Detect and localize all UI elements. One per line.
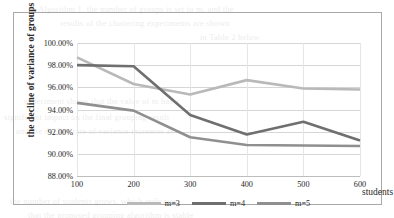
x-axis-tick-label: 400 [241,180,253,189]
y-axis-tick-label: 92.00% [48,127,73,136]
y-axis-tick-label: 90.00% [48,149,73,158]
x-axis-tick-label: 200 [127,180,139,189]
legend-swatch-icon [257,202,291,205]
series-line-m3 [77,57,360,94]
x-axis-tick-label: 300 [184,180,196,189]
y-axis-tick-label: 98.00% [48,61,73,70]
legend-label: m=4 [230,199,245,208]
x-axis-title: students [362,187,393,197]
x-axis-tick-label: 100 [71,180,83,189]
y-axis-tick-label: 94.00% [48,105,73,114]
legend-swatch-icon [127,202,161,205]
legend-label: m=3 [165,199,180,208]
legend-swatch-icon [192,202,226,205]
legend-item-m4[interactable]: m=4 [192,199,245,208]
x-gridline [360,43,361,176]
legend-label: m=5 [295,199,310,208]
y-axis-title: the decline of variance of groups [26,0,36,145]
plot-area: 100.00%98.00%96.00%94.00%92.00%90.00%88.… [77,43,360,176]
x-axis-tick-label: 500 [297,180,309,189]
y-axis-tick-label: 100.00% [44,39,73,48]
chart-container: Algorithm 1, the number of groups is set… [0,0,394,218]
y-gridline [77,176,360,177]
y-axis-tick-label: 88.00% [48,172,73,181]
bleed-text-line: that the proposed grouping algorithm is … [28,210,193,218]
series-layer [77,43,360,176]
legend-item-m5[interactable]: m=5 [257,199,310,208]
chart-frame: the decline of variance of groups 100.00… [13,12,382,205]
chart-legend: m=3m=4m=5 [77,199,360,208]
legend-item-m3[interactable]: m=3 [127,199,180,208]
y-axis-tick-label: 96.00% [48,83,73,92]
